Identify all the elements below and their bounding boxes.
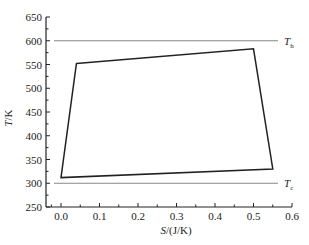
- x-tick-label: 0.0: [54, 210, 68, 222]
- y-axis-label: T/K: [2, 109, 14, 126]
- y-tick-label: 550: [26, 59, 43, 71]
- y-tick-label: 450: [26, 106, 43, 118]
- axes: 2503003504004505005506006500.00.10.20.30…: [26, 11, 300, 222]
- x-tick-label: 0.1: [93, 210, 107, 222]
- x-tick-label: 0.3: [170, 210, 184, 222]
- ts-diagram-chart: ThTc 2503003504004505005506006500.00.10.…: [0, 0, 309, 245]
- x-tick-label: 0.4: [208, 210, 222, 222]
- reference-label-th: Th: [284, 35, 294, 50]
- y-tick-label: 650: [26, 11, 43, 23]
- reference-lines: ThTc: [54, 35, 294, 193]
- y-tick-label: 400: [26, 130, 43, 142]
- x-tick-label: 0.5: [247, 210, 261, 222]
- y-tick-label: 500: [26, 82, 43, 94]
- y-tick-label: 350: [26, 154, 43, 166]
- x-axis-label: S/(J/K): [160, 224, 192, 237]
- x-tick-label: 0.2: [131, 210, 145, 222]
- reference-label-tc: Tc: [284, 177, 293, 192]
- x-tick-label: 0.6: [285, 210, 299, 222]
- cycle-path: [61, 49, 273, 178]
- cycle-polygon: [61, 49, 273, 178]
- y-tick-label: 250: [26, 201, 43, 213]
- y-tick-label: 600: [26, 35, 43, 47]
- y-tick-label: 300: [26, 177, 43, 189]
